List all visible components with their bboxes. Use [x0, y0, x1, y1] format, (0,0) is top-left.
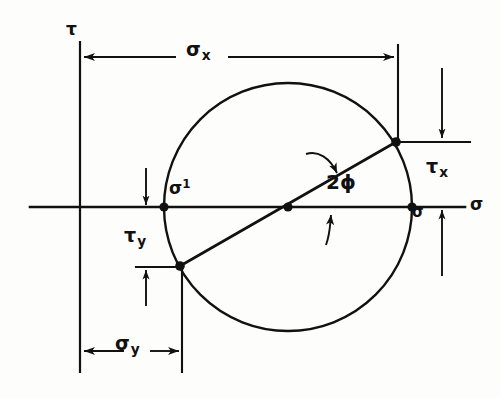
tau-y-subscript: y [136, 233, 146, 249]
angle-arc-group [306, 153, 337, 245]
sigma-x-subscript: x [201, 47, 211, 63]
tau-y-base: τ [124, 224, 136, 246]
axis-group [30, 42, 465, 372]
angle-arc-lower [326, 215, 331, 245]
tau-y-label: τy [124, 226, 146, 249]
sigma-right-label: σ [412, 205, 424, 220]
sigma-prime-label: σ1 [169, 179, 191, 197]
sigma-prime-base: σ [169, 178, 182, 198]
sigma-x-label: σx [186, 40, 211, 63]
sigma-prime-superscript: 1 [182, 177, 190, 191]
mohr-circle-drawing [0, 0, 501, 398]
tau-x-base: τ [426, 155, 438, 177]
sigma-axis-label: σ [470, 196, 483, 213]
angle-number: 2 [326, 170, 340, 194]
sigma-1-point-marker [159, 202, 168, 211]
circle-center-marker [283, 202, 292, 211]
sigma-y-label: σy [115, 334, 140, 357]
x-face-point-marker [391, 137, 401, 147]
phi-symbol: ϕ [340, 170, 356, 194]
sigma-y-subscript: y [130, 341, 140, 357]
y-face-point-marker [175, 261, 185, 271]
tau-x-subscript: x [438, 164, 448, 180]
tau-x-label: τx [426, 157, 448, 180]
sigma-x-base: σ [186, 38, 201, 60]
sigma-y-base: σ [115, 332, 130, 354]
tau-axis-label: τ [66, 21, 77, 38]
point-marker-group [159, 137, 416, 271]
mohr-circle-figure: τ σ σx σy τx τy σ1 σ 2ϕ [0, 0, 501, 398]
angle-label: 2ϕ [326, 172, 356, 192]
